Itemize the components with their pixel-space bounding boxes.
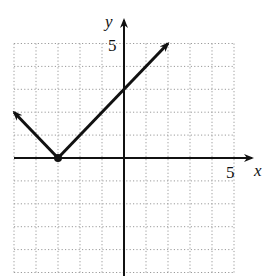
vertex-point: [54, 154, 62, 162]
absolute-value-curve: [14, 44, 168, 163]
graph: x y 5 5: [0, 0, 275, 279]
curve-right-ray: [58, 44, 168, 159]
y-tick-label-5: 5: [108, 36, 117, 55]
x-tick-label-5: 5: [226, 163, 235, 182]
y-axis-label: y: [103, 12, 113, 31]
x-axis-label: x: [253, 161, 262, 180]
